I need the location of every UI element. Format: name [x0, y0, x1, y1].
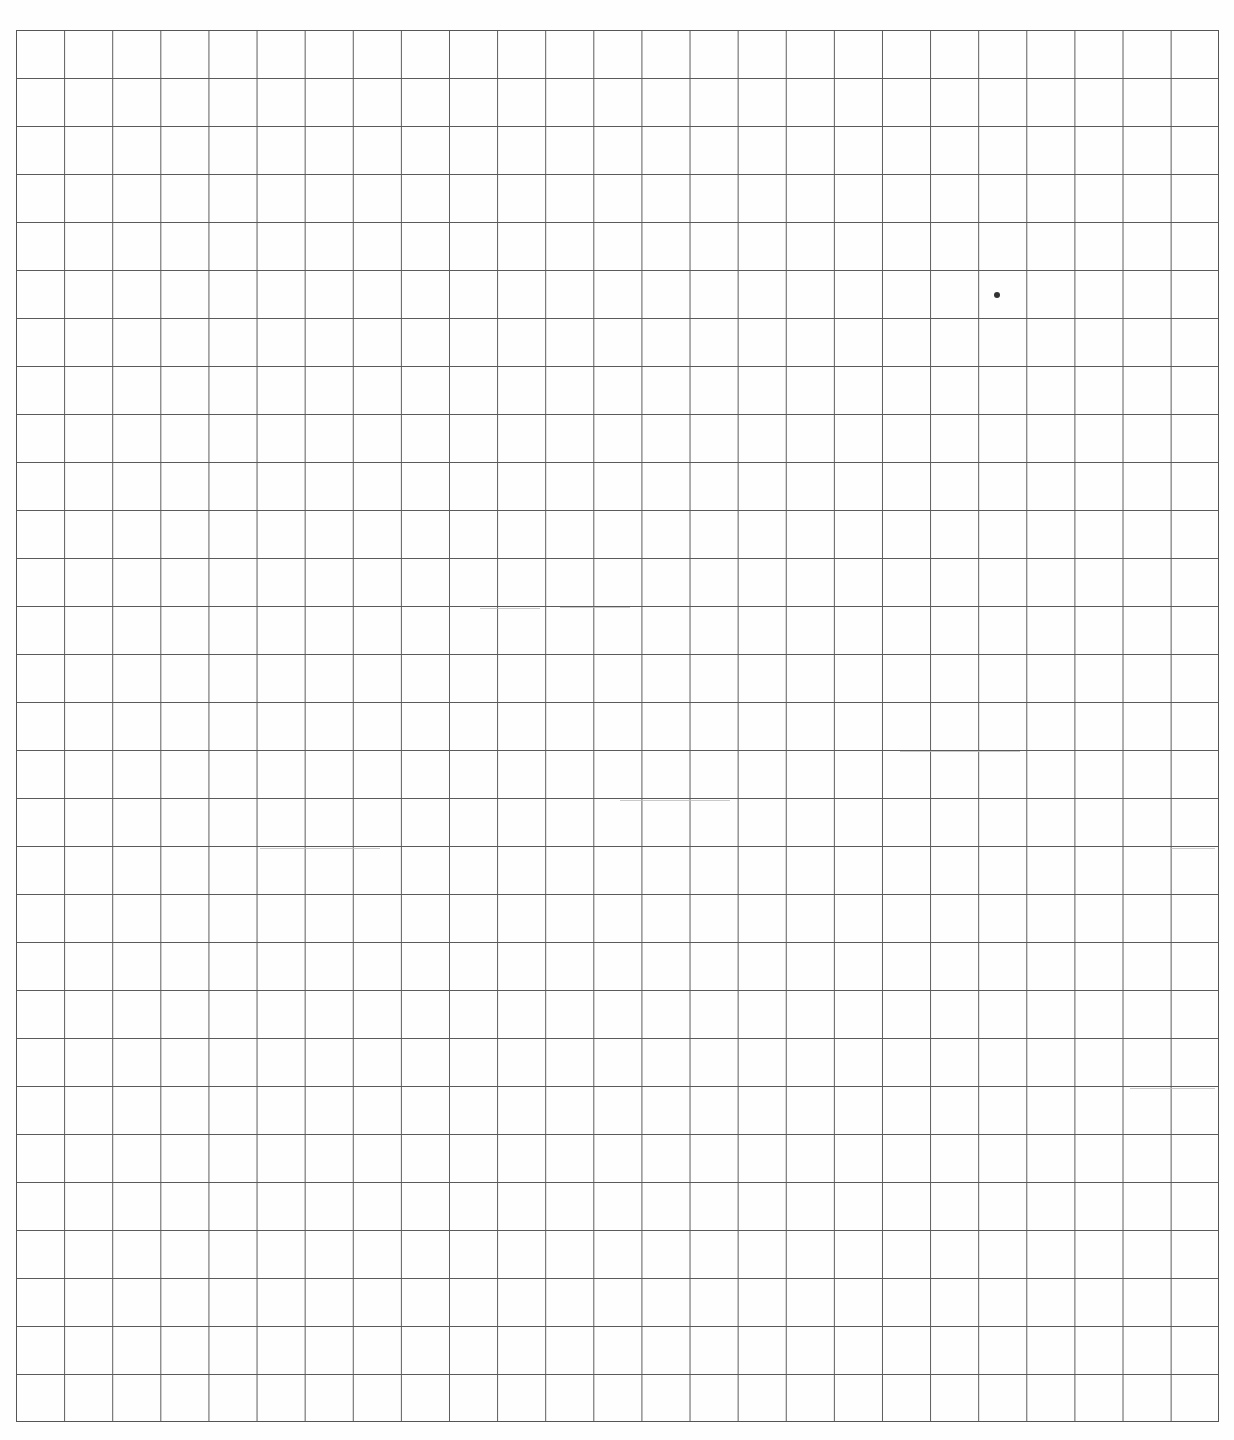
pen-dot-mark — [994, 292, 1000, 298]
faint-mark — [1130, 1088, 1215, 1089]
faint-mark — [560, 607, 630, 608]
faint-mark — [260, 848, 380, 849]
faint-mark — [1170, 848, 1215, 849]
faint-mark — [900, 751, 1020, 752]
graph-paper-page — [0, 0, 1234, 1440]
faint-mark — [620, 800, 730, 801]
grid — [16, 30, 1219, 1422]
faint-mark — [480, 608, 540, 609]
